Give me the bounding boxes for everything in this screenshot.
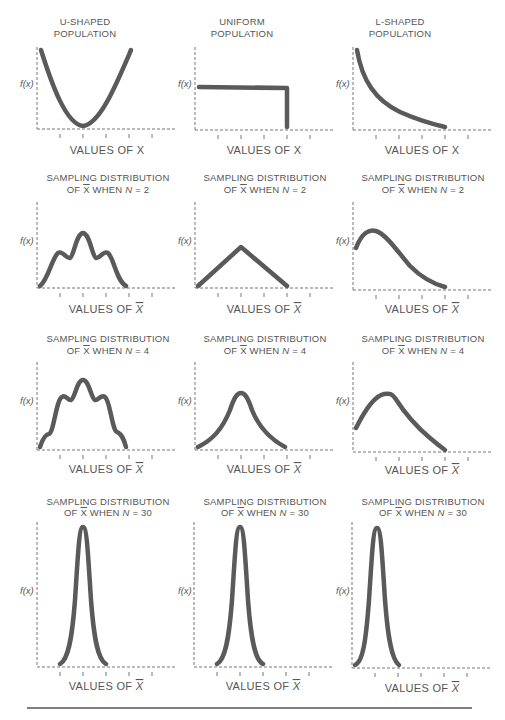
density-curve (357, 50, 445, 127)
density-curve (40, 380, 126, 447)
x-axis-label: VALUES OF X (385, 303, 460, 315)
panel-title-line1: U-SHAPED (60, 16, 111, 27)
x-axis-label: VALUES OF X (385, 682, 460, 694)
x-axis-label: VALUES OF X (385, 464, 460, 476)
density-curve (60, 527, 106, 664)
panel-l-shaped-n30: SAMPLING DISTRIBUTION OF X WHEN N = 30 f… (336, 496, 490, 694)
y-axis-label: f(x) (178, 235, 192, 246)
x-axis-label: VALUES OF X (227, 303, 302, 315)
panel-uniform-n4: SAMPLING DISTRIBUTION OF X WHEN N = 4 f(… (178, 333, 334, 475)
x-axis-label: VALUES OF X (69, 463, 144, 475)
x-ticks (218, 135, 310, 139)
y-axis-label: f(x) (178, 78, 192, 89)
x-ticks (60, 672, 152, 676)
x-ticks (218, 455, 310, 459)
y-axis-label: f(x) (178, 395, 192, 406)
panel-title-line1: SAMPLING DISTRIBUTION (47, 172, 170, 183)
panel-u-shaped-n30: SAMPLING DISTRIBUTION OF X WHEN N = 30 f… (20, 496, 176, 692)
panel-title-line1: SAMPLING DISTRIBUTION (204, 172, 327, 183)
density-curve (199, 87, 287, 127)
y-axis-label: f(x) (336, 78, 350, 89)
panel-title-line2: OF X WHEN N = 4 (67, 345, 149, 356)
panel-u-shaped-n4: SAMPLING DISTRIBUTION OF X WHEN N = 4 f(… (20, 333, 176, 475)
y-axis-label: f(x) (20, 395, 34, 406)
x-ticks (375, 673, 467, 677)
density-curve (40, 233, 126, 286)
panel-uniform-n2: SAMPLING DISTRIBUTION OF X WHEN N = 2 f(… (178, 172, 334, 315)
panel-title-line1: SAMPLING DISTRIBUTION (47, 333, 170, 344)
x-axis-label: VALUES OF X (226, 680, 301, 692)
x-ticks (217, 672, 309, 676)
panel-title-line2: OF X WHEN N = 2 (382, 184, 464, 195)
panel-title-line1: SAMPLING DISTRIBUTION (204, 333, 327, 344)
density-curve (356, 230, 445, 287)
panel-title-line2: OF X WHEN N = 2 (224, 184, 306, 195)
y-axis-label: f(x) (20, 235, 34, 246)
y-axis-label: f(x) (336, 235, 350, 246)
panel-title-line2: OF X WHEN N = 30 (221, 507, 309, 518)
panel-title-line2: OF X WHEN N = 30 (379, 507, 467, 518)
panel-title-line2: POPULATION (369, 28, 432, 39)
panel-uniform-population: UNIFORM POPULATION f(x) VALUES OF X (178, 16, 334, 156)
y-axis-label: f(x) (20, 585, 34, 596)
x-ticks (60, 293, 152, 297)
density-curve (355, 528, 399, 665)
x-axis-label: VALUES OF X (70, 144, 145, 156)
y-axis-label: f(x) (178, 585, 192, 596)
x-ticks (60, 455, 152, 459)
x-ticks (376, 135, 468, 139)
x-ticks (376, 457, 468, 461)
x-axis-label: VALUES OF X (227, 463, 302, 475)
panel-title-line1: SAMPLING DISTRIBUTION (204, 496, 327, 507)
x-axis-label: VALUES OF X (385, 144, 460, 156)
panel-title-line1: SAMPLING DISTRIBUTION (362, 172, 485, 183)
panel-title-line2: OF X WHEN N = 4 (224, 345, 306, 356)
density-curve (198, 247, 287, 286)
y-axis-label: f(x) (20, 78, 34, 89)
sampling-distribution-figure: U-SHAPED POPULATION f(x) VALUES OF X UNI… (0, 0, 505, 720)
panel-title-line2: POPULATION (54, 28, 117, 39)
x-ticks (60, 134, 152, 138)
panel-title-line2: OF X WHEN N = 30 (64, 507, 152, 518)
panel-title-line2: OF X WHEN N = 2 (67, 184, 149, 195)
panel-l-shaped-population: L-SHAPED POPULATION f(x) VALUES OF X (336, 16, 492, 156)
panel-l-shaped-n4: SAMPLING DISTRIBUTION OF X WHEN N = 4 f(… (336, 333, 492, 476)
x-ticks (376, 295, 468, 299)
density-curve (198, 393, 285, 447)
panel-l-shaped-n2: SAMPLING DISTRIBUTION OF X WHEN N = 2 f(… (336, 172, 492, 315)
density-curve (356, 394, 445, 450)
y-axis-label: f(x) (336, 585, 350, 596)
x-ticks (218, 293, 310, 297)
density-curve (217, 527, 263, 664)
panel-title-line1: L-SHAPED (375, 16, 424, 27)
panel-title-line1: SAMPLING DISTRIBUTION (47, 496, 170, 507)
panel-title-line2: OF X WHEN N = 4 (382, 345, 464, 356)
x-axis-label: VALUES OF X (69, 303, 144, 315)
panel-uniform-n30: SAMPLING DISTRIBUTION OF X WHEN N = 30 f… (178, 496, 333, 692)
panel-u-shaped-n2: SAMPLING DISTRIBUTION OF X WHEN N = 2 f(… (20, 172, 176, 315)
x-axis-label: VALUES OF X (227, 144, 302, 156)
y-axis-label: f(x) (336, 395, 350, 406)
panel-u-shaped-population: U-SHAPED POPULATION f(x) VALUES OF X (20, 16, 176, 156)
panel-title-line1: SAMPLING DISTRIBUTION (362, 496, 485, 507)
panel-title-line1: SAMPLING DISTRIBUTION (362, 333, 485, 344)
x-axis-label: VALUES OF X (69, 680, 144, 692)
panel-title-line1: UNIFORM (219, 16, 265, 27)
panel-title-line2: POPULATION (211, 28, 274, 39)
density-curve (41, 50, 131, 126)
